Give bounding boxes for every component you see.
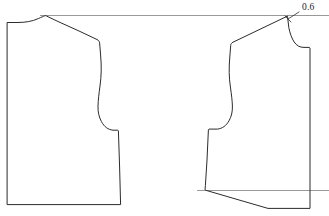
canvas-background bbox=[0, 0, 329, 216]
pattern-drawing-canvas: 0.6 bbox=[0, 0, 329, 216]
pattern-figure: 0.6 bbox=[0, 0, 329, 216]
dimension-label-0.6: 0.6 bbox=[302, 2, 315, 12]
